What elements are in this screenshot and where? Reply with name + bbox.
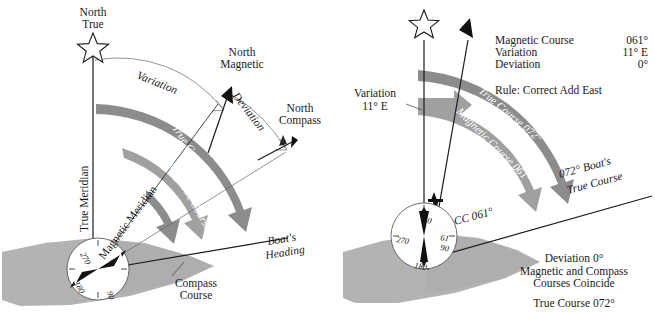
label-deviation-left: Deviation — [230, 89, 268, 133]
north-true-star-icon-right — [409, 10, 439, 38]
label-north-magnetic-line2: Magnetic — [220, 58, 263, 71]
label-footer-true-course: True Course 072° — [533, 297, 615, 309]
north-compass-marker-icon — [258, 135, 298, 160]
label-rule-note: Rule: Correct Add East — [495, 84, 603, 96]
label-north-compass-line2: Compass — [279, 114, 322, 127]
navigation-diagram-figure: 0 90 180 270 North True Variation North … — [0, 0, 655, 312]
table-row-1-value: 11° E — [622, 46, 648, 58]
label-compass-course-line2: Course — [180, 289, 213, 301]
north-magnetic-arrow-right — [459, 18, 473, 38]
table-row-0-value: 061° — [626, 34, 648, 46]
label-footer-deviation: Deviation 0° — [545, 252, 604, 264]
label-variation-right-line2: 11° E — [362, 100, 388, 112]
table-row-2-value: 0° — [638, 58, 649, 70]
label-cc-061: CC 061° — [452, 205, 494, 227]
label-north-compass-line1: North — [287, 102, 314, 114]
label-variation-right-line1: Variation — [354, 87, 396, 99]
label-north-true-line2: True — [82, 18, 103, 30]
label-north-true-line1: North — [80, 6, 107, 18]
label-north-magnetic-line1: North — [229, 46, 256, 58]
left-diagram: 0 90 180 270 North True Variation North … — [2, 6, 322, 306]
table-row-2-label: Deviation — [495, 58, 541, 70]
label-variation-left: Variation — [135, 69, 179, 96]
diagram-canvas: 0 90 180 270 North True Variation North … — [0, 0, 655, 312]
right-diagram: 0 61 90 180 270 Variation 11° E True Cou… — [343, 10, 652, 309]
label-footer-coincide-line2: Courses Coincide — [533, 277, 614, 289]
label-true-meridian: True Meridian — [78, 165, 90, 232]
rose-tick-left-90: 90 — [105, 290, 117, 302]
table-row-1-label: Variation — [495, 46, 537, 58]
